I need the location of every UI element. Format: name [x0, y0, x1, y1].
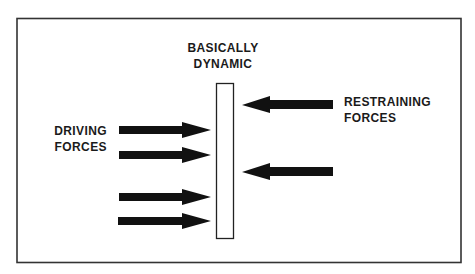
- restraining-label-line-1: RESTRAINING: [344, 95, 431, 109]
- title-line-1: BASICALLY: [187, 41, 258, 55]
- restraining-force-arrow: [242, 96, 333, 113]
- force-field-diagram: BASICALLY DYNAMIC DRIVING FORCES RESTRAI…: [0, 0, 475, 274]
- driving-force-arrow: [119, 147, 211, 163]
- driving-force-arrow: [118, 213, 211, 229]
- equilibrium-bar: [217, 84, 234, 239]
- restraining-force-arrow: [242, 163, 333, 180]
- driving-force-arrow: [119, 189, 211, 205]
- driving-force-arrow: [119, 122, 211, 138]
- restraining-forces-group: [242, 96, 333, 180]
- driving-label-line-1: DRIVING: [54, 124, 107, 138]
- restraining-label-line-2: FORCES: [344, 111, 396, 125]
- driving-label-line-2: FORCES: [55, 140, 107, 154]
- title-line-2: DYNAMIC: [194, 57, 253, 71]
- driving-forces-group: [118, 122, 211, 229]
